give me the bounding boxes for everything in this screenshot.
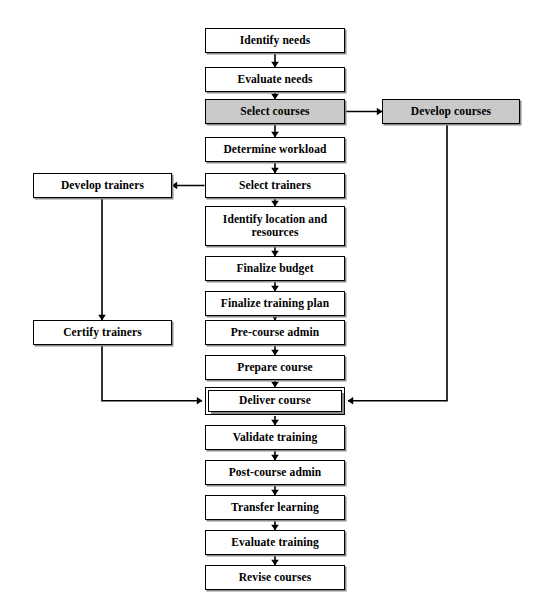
node-label: Prepare course <box>234 361 315 374</box>
node-label: Select trainers <box>236 179 314 192</box>
node-determine-workload[interactable]: Determine workload <box>205 137 345 162</box>
node-label: Finalize training plan <box>218 297 332 310</box>
node-label: Develop courses <box>408 105 494 118</box>
node-label: Identify location and resources <box>206 213 344 239</box>
node-pre-course-admin[interactable]: Pre-course admin <box>205 320 345 345</box>
flowchart-canvas: Identify needs Evaluate needs Select cou… <box>0 0 546 610</box>
node-label: Validate training <box>230 431 321 444</box>
node-label: Determine workload <box>220 143 329 156</box>
connector-develop-courses-to-deliver <box>348 125 447 401</box>
node-label: Pre-course admin <box>228 326 323 339</box>
node-label: Certify trainers <box>60 326 145 339</box>
node-label: Transfer learning <box>228 501 322 514</box>
node-deliver-course[interactable]: Deliver course <box>208 390 342 412</box>
node-develop-trainers[interactable]: Develop trainers <box>33 173 172 198</box>
node-label: Revise courses <box>236 571 315 584</box>
node-validate-training[interactable]: Validate training <box>205 425 345 450</box>
node-label: Select courses <box>237 105 312 118</box>
node-label: Post-course admin <box>226 466 325 479</box>
node-select-trainers[interactable]: Select trainers <box>205 173 345 198</box>
node-label: Deliver course <box>236 394 314 407</box>
node-revise-courses[interactable]: Revise courses <box>205 565 345 590</box>
connector-certify-to-deliver <box>102 346 202 401</box>
node-finalize-training-plan[interactable]: Finalize training plan <box>205 291 345 316</box>
node-label: Evaluate needs <box>234 73 315 86</box>
node-label: Identify needs <box>237 34 314 47</box>
node-identify-needs[interactable]: Identify needs <box>205 28 345 53</box>
node-post-course-admin[interactable]: Post-course admin <box>205 460 345 485</box>
node-certify-trainers[interactable]: Certify trainers <box>33 320 172 345</box>
node-prepare-course[interactable]: Prepare course <box>205 355 345 380</box>
node-label: Evaluate training <box>228 536 322 549</box>
node-transfer-learning[interactable]: Transfer learning <box>205 495 345 520</box>
node-select-courses[interactable]: Select courses <box>205 99 345 124</box>
node-evaluate-training[interactable]: Evaluate training <box>205 530 345 555</box>
node-label: Finalize budget <box>233 262 316 275</box>
node-develop-courses[interactable]: Develop courses <box>382 99 520 124</box>
node-label: Develop trainers <box>58 179 147 192</box>
node-finalize-budget[interactable]: Finalize budget <box>205 256 345 281</box>
node-evaluate-needs[interactable]: Evaluate needs <box>205 67 345 92</box>
node-identify-location-and-resources[interactable]: Identify location and resources <box>205 206 345 246</box>
